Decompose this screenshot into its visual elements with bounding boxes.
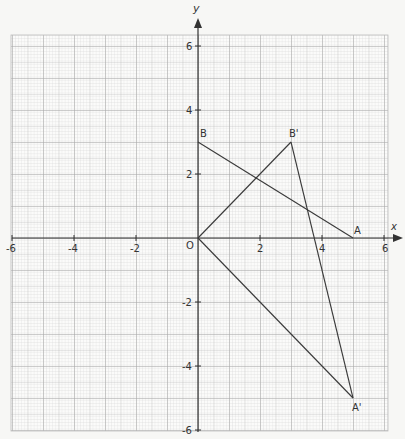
x-tick-label: 2 bbox=[257, 243, 263, 254]
y-tick-label: 2 bbox=[186, 169, 192, 180]
point-label-A: A bbox=[354, 225, 361, 236]
y-tick-label: -6 bbox=[182, 425, 192, 436]
point-label-Bprime: B' bbox=[289, 128, 299, 139]
y-tick-label: 4 bbox=[186, 105, 192, 116]
x-tick-label: -2 bbox=[130, 243, 140, 254]
x-tick-label: 4 bbox=[319, 243, 325, 254]
x-tick-label: 6 bbox=[382, 243, 388, 254]
origin-label: O bbox=[186, 240, 194, 251]
x-tick-label: -6 bbox=[6, 243, 16, 254]
coordinate-grid-figure: -6 -4 -2 2 4 6 6 4 2 -2 -4 -6 x y O B B'… bbox=[0, 0, 405, 439]
y-tick-label: -4 bbox=[182, 361, 192, 372]
x-axis-label: x bbox=[390, 221, 397, 232]
y-tick-label: -2 bbox=[182, 297, 192, 308]
y-axis-arrow-icon bbox=[194, 18, 202, 28]
point-label-Aprime: A' bbox=[352, 402, 362, 413]
x-tick-label: -4 bbox=[68, 243, 78, 254]
grid-paper bbox=[11, 35, 388, 431]
point-label-B: B bbox=[200, 128, 207, 139]
x-axis-arrow-icon bbox=[393, 234, 403, 242]
y-axis-label: y bbox=[192, 2, 200, 15]
y-tick-label: 6 bbox=[186, 41, 192, 52]
